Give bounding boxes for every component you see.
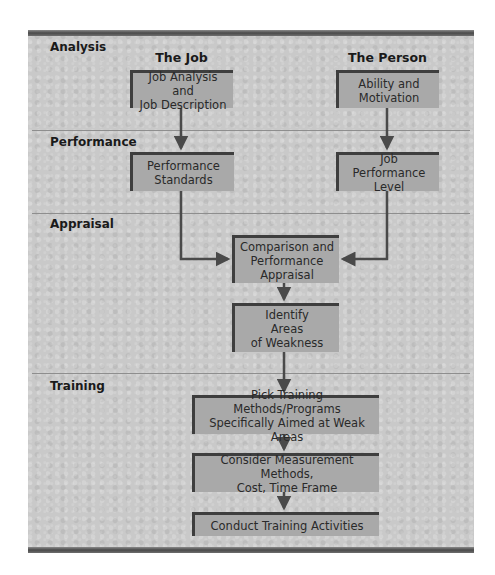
box-job-analysis: Job Analysis andJob Description	[130, 70, 233, 108]
box-text-line: Areas	[251, 322, 324, 336]
box-comparison-appraisal: Comparison andPerformanceAppraisal	[232, 235, 339, 283]
box-text-line: of Weakness	[251, 336, 324, 350]
box-text-line: Job Analysis and	[136, 70, 230, 98]
box-pick-training-methods: Pick Training Methods/ProgramsSpecifical…	[192, 395, 379, 434]
box-ability-motivation: Ability andMotivation	[336, 70, 439, 108]
box-text-line: Conduct Training Activities	[211, 519, 364, 533]
box-performance-standards: PerformanceStandards	[130, 152, 234, 191]
box-text-line: Ability and	[358, 77, 419, 91]
box-text-line: Comparison and	[240, 240, 334, 254]
box-text-line: Job Description	[136, 98, 230, 112]
box-job-performance-level: Job PerformanceLevel	[336, 152, 439, 191]
box-text-line: Motivation	[358, 91, 419, 105]
box-text-line: Cost, Time Frame	[198, 481, 376, 495]
box-conduct-training: Conduct Training Activities	[192, 512, 379, 536]
box-consider-measurement: Consider Measurement Methods,Cost, Time …	[192, 453, 379, 492]
box-text-line: Consider Measurement Methods,	[198, 453, 376, 481]
box-text-line: Standards	[147, 173, 220, 187]
box-text-line: Appraisal	[240, 268, 334, 282]
box-text-line: Performance	[240, 254, 334, 268]
box-text-line: Specifically Aimed at Weak Areas	[198, 416, 376, 444]
box-identify-weakness: IdentifyAreasof Weakness	[232, 303, 339, 352]
box-text-line: Identify	[251, 308, 324, 322]
box-text-line: Job Performance	[342, 152, 436, 180]
box-text-line: Pick Training Methods/Programs	[198, 388, 376, 416]
box-text-line: Level	[342, 180, 436, 194]
box-text-line: Performance	[147, 159, 220, 173]
